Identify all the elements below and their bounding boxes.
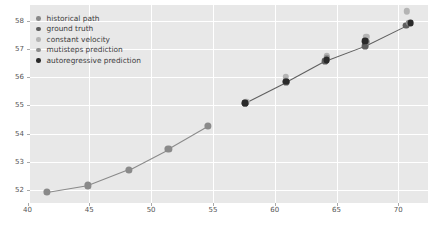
gridline-vertical [337,5,338,203]
series-line-segment [365,26,406,47]
y-tick-label: 53 [15,158,24,166]
legend-item-label: autoregressive prediction [47,57,141,64]
y-tick-mark [27,134,30,135]
chart-legend: historical pathground truthconstant velo… [36,13,141,66]
series-line-segment [129,149,169,171]
y-tick-label: 52 [15,186,24,194]
chart-figure: 5253545556575840455055606570 historical … [0,0,433,238]
legend-marker-icon [36,27,41,32]
legend-item-label: historical path [47,15,100,22]
x-tick-label: 60 [270,206,279,214]
data-point [407,20,414,27]
y-tick-label: 56 [15,73,24,81]
data-point [242,100,249,107]
x-tick-label: 50 [147,206,156,214]
legend-item: autoregressive prediction [36,55,141,66]
x-tick-label: 45 [85,206,94,214]
legend-marker-icon [36,37,41,42]
legend-item: historical path [36,13,141,24]
data-point [165,145,172,152]
y-tick-label: 55 [15,101,24,109]
series-line-segment [245,82,286,104]
figure-caption [0,228,433,238]
data-point [125,166,132,173]
legend-item-label: ground truth [47,25,94,32]
data-point [404,8,410,14]
series-line-segment [286,61,326,84]
data-point [323,57,330,64]
data-point [362,38,369,45]
legend-item: ground truth [36,24,141,35]
y-tick-mark [27,162,30,163]
y-tick-mark [27,21,30,22]
legend-marker-icon [36,58,41,63]
legend-marker-icon [36,48,41,53]
series-line-segment [88,170,129,187]
data-point [84,182,91,189]
legend-item: constant velocity [36,34,141,45]
y-tick-mark [27,105,30,106]
gridline-vertical [398,5,399,203]
y-tick-label: 54 [15,130,24,138]
gridline-vertical [151,5,152,203]
y-tick-label: 58 [15,17,24,25]
legend-item-label: constant velocity [47,36,110,43]
x-tick-label: 55 [208,206,217,214]
y-tick-mark [27,190,30,191]
legend-item: mutisteps prediction [36,45,141,56]
x-tick-label: 40 [23,206,32,214]
data-point [282,78,289,85]
data-point [204,122,211,129]
y-tick-mark [27,77,30,78]
gridline-vertical [213,5,214,203]
data-point [44,189,51,196]
x-tick-label: 65 [332,206,341,214]
legend-item-label: mutisteps prediction [47,46,123,53]
gridline-vertical [275,5,276,203]
y-tick-label: 57 [15,45,24,53]
x-tick-label: 70 [394,206,403,214]
legend-marker-icon [36,16,41,21]
series-line-segment [168,126,208,150]
y-tick-mark [27,49,30,50]
